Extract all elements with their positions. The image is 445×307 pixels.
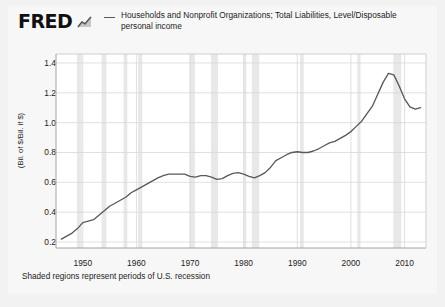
fred-logo: FRED: [18, 12, 72, 31]
fred-chart-figure: FRED Households and Nonprofit Organizati…: [0, 0, 445, 307]
plot-area: (Bil. of $/Bil. if $) 1.41.21.00.80.60.4…: [8, 40, 437, 264]
chart-card: FRED Households and Nonprofit Organizati…: [8, 6, 437, 294]
chart-canvas: [8, 40, 437, 264]
chart-header: FRED Households and Nonprofit Organizati…: [8, 6, 437, 40]
line-swatch-icon: [104, 17, 115, 18]
recession-note: Shaded regions represent periods of U.S.…: [22, 272, 210, 281]
legend-label: Households and Nonprofit Organizations; …: [121, 10, 429, 31]
mini-line-chart-icon: [77, 15, 93, 28]
